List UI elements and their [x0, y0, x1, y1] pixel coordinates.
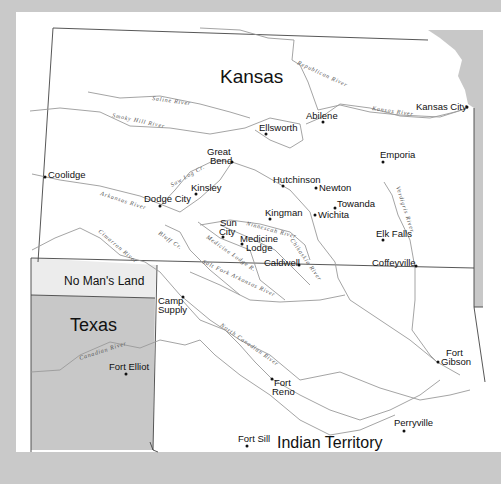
svg-text:Newton: Newton [319, 182, 351, 193]
svg-text:Perryville: Perryville [394, 417, 433, 428]
town-camp-supply[interactable]: Camp Supply [158, 295, 187, 315]
svg-text:Fort Elliot: Fort Elliot [109, 361, 149, 372]
town-kinsley[interactable]: Kinsley [191, 182, 222, 196]
svg-text:Hutchinson: Hutchinson [273, 174, 321, 185]
svg-text:Ellsworth: Ellsworth [259, 122, 298, 133]
svg-text:Caldwell: Caldwell [264, 257, 300, 268]
town-caldwell[interactable]: Caldwell [264, 257, 301, 268]
town-perryville[interactable]: Perryville [394, 417, 433, 433]
svg-text:Coolidge: Coolidge [48, 169, 86, 180]
town-fort-reno[interactable]: Fort Reno [271, 377, 295, 397]
svg-text:Kansas City: Kansas City [416, 101, 467, 112]
kansas-river-label: Kansas River [371, 105, 414, 117]
kansas-label: Kansas [220, 66, 283, 87]
svg-text:Fort Sill: Fort Sill [238, 433, 270, 444]
svg-text:Bend: Bend [210, 155, 232, 166]
saline-river-label: Saline River [152, 95, 192, 106]
texas-label: Texas [70, 315, 117, 335]
svg-text:Towanda: Towanda [337, 198, 376, 209]
town-fort-gibson[interactable]: Fort Gibson [437, 347, 472, 367]
historical-map: Republican River Saline River Smoky Hill… [0, 0, 501, 484]
svg-text:Reno: Reno [272, 386, 295, 397]
svg-text:Coffeyville: Coffeyville [372, 257, 416, 268]
svg-text:Gibson: Gibson [441, 356, 471, 367]
town-sun-city[interactable]: Sun City [219, 217, 237, 239]
town-hutchinson[interactable]: Hutchinson [273, 174, 321, 188]
town-coffeyville[interactable]: Coffeyville [372, 257, 418, 268]
town-wichita[interactable]: Wichita [314, 209, 350, 220]
verdigris-river [384, 182, 437, 362]
town-kingman[interactable]: Kingman [265, 207, 303, 221]
cimarron-river-label: Cimarron River [97, 228, 139, 264]
missouri-region [428, 30, 483, 307]
town-elk-falls[interactable]: Elk Falls [376, 228, 412, 242]
town-coolidge[interactable]: Coolidge [44, 169, 86, 180]
svg-text:Emporia: Emporia [380, 149, 416, 160]
svg-text:Lodge: Lodge [246, 242, 272, 253]
svg-text:Supply: Supply [158, 304, 187, 315]
svg-text:Wichita: Wichita [318, 209, 350, 220]
arkansas-river-label: Arkansas River [99, 190, 147, 211]
town-newton[interactable]: Newton [315, 182, 352, 193]
verdigris-river-label: Verdigris River [395, 185, 416, 233]
indian-territory-label: Indian Territory [277, 434, 383, 451]
town-fort-sill[interactable]: Fort Sill [238, 433, 270, 448]
town-kansas-city[interactable]: Kansas City [416, 101, 469, 112]
town-medicine-lodge[interactable]: Medicine Lodge [240, 233, 278, 253]
town-ellsworth[interactable]: Ellsworth [259, 122, 298, 136]
svg-text:Elk Falls: Elk Falls [376, 228, 412, 239]
svg-text:Kinsley: Kinsley [191, 182, 222, 193]
town-dodge-city[interactable]: Dodge City [144, 193, 191, 208]
town-emporia[interactable]: Emporia [380, 149, 416, 164]
town-towanda[interactable]: Towanda [334, 198, 376, 210]
town-great-bend[interactable]: Great Bend [207, 146, 234, 166]
svg-text:Kingman: Kingman [265, 207, 303, 218]
svg-text:Abilene: Abilene [306, 110, 338, 121]
bluff-creek-label: Bluff Cr. [157, 230, 183, 251]
svg-text:Dodge City: Dodge City [144, 193, 191, 204]
svg-text:City: City [219, 226, 236, 237]
no-mans-land-label: No Man's Land [64, 274, 144, 288]
north-canadian-river-label: North Canadian River [219, 321, 280, 366]
